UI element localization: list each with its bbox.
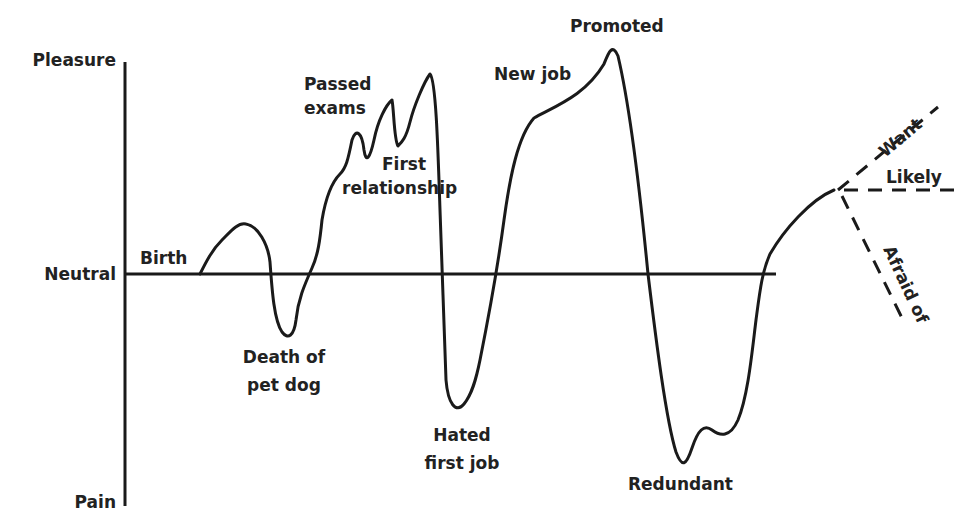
event-label-passed-exams: Passed exams bbox=[304, 70, 371, 122]
event-label-first-relationship: First relationship bbox=[342, 150, 457, 202]
event-label-death-of-pet-dog: Death of pet dog bbox=[236, 343, 332, 399]
event-label-hated-line1: Hated bbox=[412, 421, 512, 449]
want-label: Want bbox=[875, 114, 926, 161]
event-label-birth: Birth bbox=[140, 244, 187, 272]
event-label-redundant: Redundant bbox=[628, 470, 733, 498]
event-label-hated-first-job: Hated first job bbox=[412, 421, 512, 477]
event-label-new-job: New job bbox=[494, 60, 571, 88]
event-label-death-line2: pet dog bbox=[236, 371, 332, 399]
afraid-label: Afraid of bbox=[879, 242, 933, 327]
event-label-hated-line2: first job bbox=[412, 449, 512, 477]
event-label-promoted: Promoted bbox=[570, 12, 664, 40]
event-label-first-line2: relationship bbox=[342, 174, 457, 202]
event-label-death-line1: Death of bbox=[236, 343, 332, 371]
life-curve bbox=[200, 50, 834, 463]
axis-label-pain: Pain bbox=[14, 488, 116, 516]
event-label-passed-line2: exams bbox=[304, 94, 371, 122]
likely-label: Likely bbox=[886, 163, 942, 191]
axis-label-neutral: Neutral bbox=[14, 260, 116, 288]
axis-label-pleasure: Pleasure bbox=[14, 46, 116, 74]
